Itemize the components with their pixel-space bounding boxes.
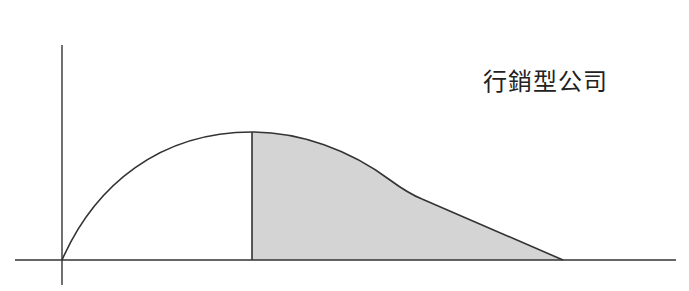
shaded-region (252, 132, 563, 260)
life-cycle-diagram (0, 0, 689, 291)
rising-curve (62, 132, 252, 260)
diagram-label: 行銷型公司 (483, 70, 608, 94)
